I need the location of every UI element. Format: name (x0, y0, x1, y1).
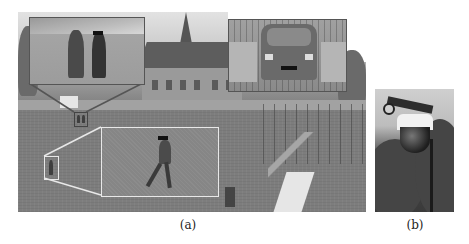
windshield (267, 28, 311, 46)
face-censor-bar (93, 31, 103, 35)
headlight (265, 54, 273, 60)
license-plate-censor-bar (281, 66, 297, 70)
caption-b: (b) (403, 218, 427, 232)
car-inset (228, 19, 347, 92)
person-torso (159, 140, 171, 164)
person-leg (146, 163, 162, 188)
fence-panel (229, 42, 257, 82)
camera-dome (400, 127, 430, 153)
face-censor-bar (158, 136, 168, 140)
person (68, 30, 84, 78)
two-pedestrians-inset (29, 17, 145, 85)
inset-background (30, 18, 144, 34)
camera-pole (430, 139, 433, 212)
person-leg (164, 162, 172, 188)
fence-panel (321, 42, 346, 82)
person (92, 32, 106, 78)
figure-panel-b (375, 89, 454, 212)
caption-a: (a) (176, 218, 200, 232)
headlight (305, 54, 313, 60)
figure-panel-a (18, 12, 366, 212)
walking-person-inset (101, 127, 219, 197)
car-body (261, 24, 317, 80)
camera-lens-housing (383, 103, 395, 115)
